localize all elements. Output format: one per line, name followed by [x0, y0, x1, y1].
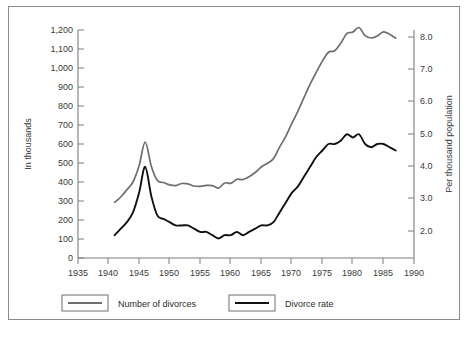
y2tick-label: 4.0: [420, 161, 433, 171]
ytick-label: 0: [68, 253, 73, 263]
y2tick-label: 3.0: [420, 193, 433, 203]
xtick-label: 1980: [342, 268, 362, 278]
ytick-label: 700: [58, 120, 73, 130]
xtick-label: 1935: [68, 268, 88, 278]
right-axis-ticks: [408, 37, 414, 231]
ytick-label: 400: [58, 177, 73, 187]
x-axis-tick-labels: 1935 1940 1945 1950 1955 1960 1965 1970 …: [68, 268, 424, 278]
x-axis-ticks: [78, 258, 414, 264]
xtick-label: 1975: [312, 268, 332, 278]
y2tick-label: 8.0: [420, 32, 433, 42]
chart-legend: Number of divorces Divorce rate: [62, 295, 334, 311]
left-axis-ticks: [78, 30, 84, 258]
right-axis-tick-labels: 8.0 7.0 6.0 5.0 4.0 3.0 2.0: [420, 32, 433, 236]
ytick-label: 600: [58, 139, 73, 149]
left-axis-title: In thousands: [23, 118, 33, 170]
xtick-label: 1950: [159, 268, 179, 278]
ytick-label: 1,200: [50, 25, 73, 35]
chart-canvas: 1,200 1,100 1,000 900 800 700 600 500 40…: [0, 0, 471, 338]
series-line-divorce-rate: [115, 134, 396, 238]
y2tick-label: 2.0: [420, 226, 433, 236]
xtick-label: 1970: [281, 268, 301, 278]
ytick-label: 200: [58, 215, 73, 225]
ytick-label: 900: [58, 82, 73, 92]
ytick-label: 100: [58, 234, 73, 244]
xtick-label: 1960: [220, 268, 240, 278]
xtick-label: 1955: [190, 268, 210, 278]
xtick-label: 1940: [98, 268, 118, 278]
ytick-label: 500: [58, 158, 73, 168]
y2tick-label: 6.0: [420, 96, 433, 106]
ytick-label: 800: [58, 101, 73, 111]
left-axis-tick-labels: 1,200 1,100 1,000 900 800 700 600 500 40…: [50, 25, 73, 263]
y2tick-label: 5.0: [420, 129, 433, 139]
xtick-label: 1965: [251, 268, 271, 278]
chart-figure: 1,200 1,100 1,000 900 800 700 600 500 40…: [0, 0, 471, 338]
right-axis-title: Per thousand population: [444, 95, 454, 193]
ytick-label: 300: [58, 196, 73, 206]
xtick-label: 1945: [129, 268, 149, 278]
series-line-number-of-divorces: [115, 27, 396, 202]
xtick-label: 1990: [404, 268, 424, 278]
legend-label-number-of-divorces: Number of divorces: [118, 299, 197, 309]
ytick-label: 1,100: [50, 44, 73, 54]
y2tick-label: 7.0: [420, 64, 433, 74]
legend-label-divorce-rate: Divorce rate: [285, 299, 334, 309]
ytick-label: 1,000: [50, 63, 73, 73]
xtick-label: 1985: [373, 268, 393, 278]
